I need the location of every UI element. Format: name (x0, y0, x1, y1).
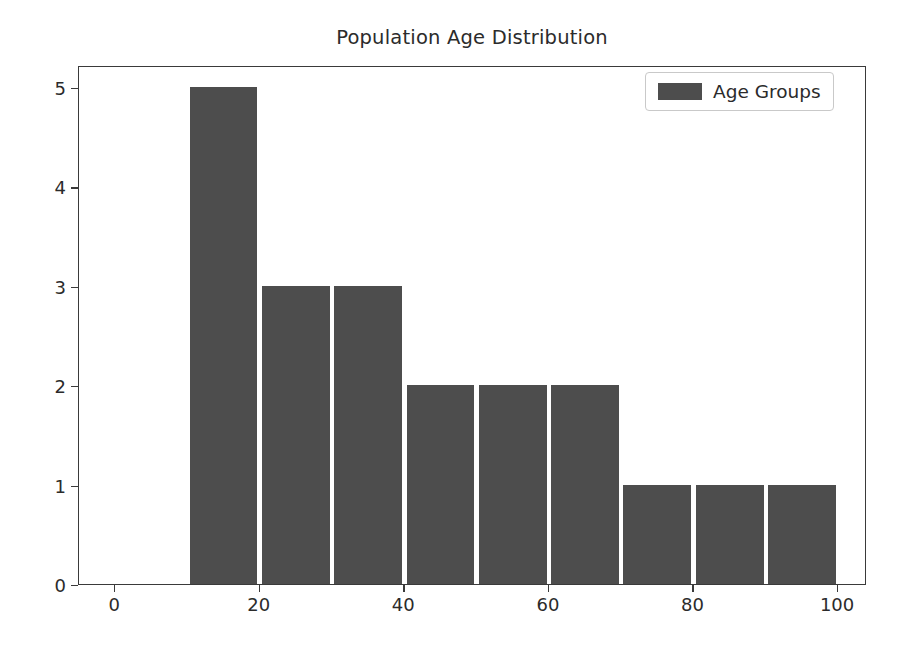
legend-label-age-groups: Age Groups (713, 81, 821, 102)
bar (262, 286, 330, 584)
y-tick-mark (71, 88, 78, 89)
bar (334, 286, 402, 584)
legend-swatch-age-groups (658, 83, 702, 100)
y-tick-label: 0 (55, 575, 66, 596)
x-tick-mark (837, 585, 838, 592)
y-tick-mark (71, 187, 78, 188)
y-tick-mark (71, 386, 78, 387)
bar (407, 385, 475, 584)
x-tick-label: 80 (681, 594, 704, 615)
x-tick-label: 0 (108, 594, 119, 615)
x-tick-label: 40 (392, 594, 415, 615)
chart-legend: Age Groups (645, 72, 834, 111)
y-tick-label: 2 (55, 376, 66, 397)
chart-title: Population Age Distribution (78, 26, 866, 49)
y-tick-label: 4 (55, 177, 66, 198)
y-tick-mark (71, 486, 78, 487)
bar (479, 385, 547, 584)
x-tick-label: 100 (820, 594, 854, 615)
x-tick-mark (548, 585, 549, 592)
bar (768, 485, 836, 584)
x-tick-mark (259, 585, 260, 592)
chart-figure: Population Age Distribution 020406080100… (0, 0, 912, 668)
plot-area (78, 66, 866, 585)
x-tick-label: 20 (247, 594, 270, 615)
x-tick-label: 60 (536, 594, 559, 615)
y-tick-label: 5 (55, 77, 66, 98)
x-tick-mark (403, 585, 404, 592)
bars-layer (79, 67, 865, 584)
y-tick-label: 3 (55, 276, 66, 297)
y-tick-mark (71, 287, 78, 288)
bar (190, 87, 258, 584)
y-tick-mark (71, 585, 78, 586)
bar (623, 485, 691, 584)
bar (696, 485, 764, 584)
bar (551, 385, 619, 584)
x-tick-mark (114, 585, 115, 592)
x-tick-mark (692, 585, 693, 592)
y-tick-label: 1 (55, 475, 66, 496)
